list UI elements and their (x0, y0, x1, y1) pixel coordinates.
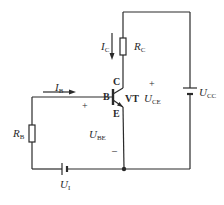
uce-plus-sign: + (149, 78, 155, 89)
collector-supply-battery (183, 88, 197, 94)
collector-resistor (120, 38, 126, 55)
ube-label: UBE (89, 128, 106, 142)
junction-dot (122, 167, 126, 171)
collector-current-label: IC (100, 40, 110, 54)
ube-minus-sign: – (111, 145, 118, 156)
input-source-battery (62, 163, 67, 175)
base-resistor-label: RB (12, 127, 25, 141)
collector-resistor-label: RC (133, 40, 146, 54)
transistor-vt (113, 88, 123, 107)
ube-plus-sign: + (82, 100, 88, 111)
base-terminal-label: B (103, 91, 110, 102)
collector-current-arrow (110, 33, 115, 60)
collector-terminal-label: C (113, 76, 120, 87)
emitter-terminal-label: E (113, 108, 120, 119)
transistor-label: VT (125, 93, 139, 104)
uce-label: UCE (144, 92, 161, 106)
base-resistor (29, 125, 35, 142)
circuit-diagram: IC RC C B E VT IB + UCE UCC + UBE – RB U… (0, 0, 224, 205)
base-current-label: IB (54, 81, 64, 95)
collector-supply-label: UCC (199, 86, 217, 100)
input-source-label: UI (60, 178, 71, 192)
